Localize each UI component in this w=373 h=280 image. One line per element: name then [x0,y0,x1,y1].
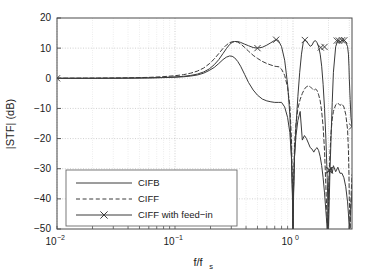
y-tick-label: −20 [34,133,51,144]
legend-label: CIFB [138,177,160,188]
svg-text:0: 0 [295,234,299,241]
stf-magnitude-chart: 20100−10−20−30−40−5010−210−1100 CIFBCIFF… [0,0,373,280]
y-tick-label: −50 [34,223,51,234]
svg-text:10: 10 [45,236,57,247]
y-tick-label: −30 [34,163,51,174]
y-tick-label: 20 [40,12,52,23]
y-tick-label: −40 [34,193,51,204]
legend-label: CIFF with feed−in [138,209,213,220]
legend-label: CIFF [138,193,159,204]
y-tick-label: −10 [34,103,51,114]
svg-text:10: 10 [163,236,175,247]
svg-text:f/f: f/f [193,256,203,268]
svg-text:−2: −2 [57,234,65,241]
figure-container: 20100−10−20−30−40−5010−210−1100 CIFBCIFF… [0,0,373,280]
y-axis-title: |STF| (dB) [4,99,16,149]
y-tick-label: 10 [40,43,52,54]
svg-text:s: s [209,262,213,271]
y-tick-label: 0 [45,73,51,84]
svg-text:−1: −1 [175,234,183,241]
svg-text:10: 10 [281,236,293,247]
legend-box: CIFBCIFFCIFF with feed−in [66,170,237,226]
